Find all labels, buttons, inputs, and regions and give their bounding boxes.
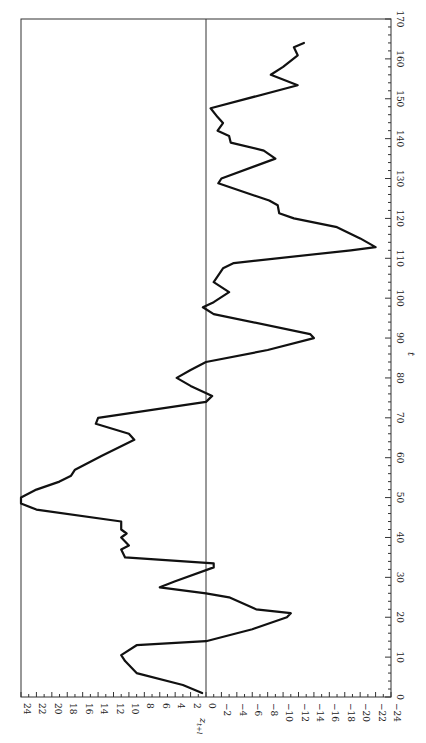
t-tick-label: 80 [395,372,405,384]
t-tick-label: 150 [395,90,405,107]
z-tick-label: −2 [222,703,232,716]
z-tick-label: −16 [330,703,340,722]
z-tick-label: 24 [22,703,32,715]
z-tick-label: 8 [145,703,155,709]
z-tick-label: −10 [284,703,294,722]
t-tick-label: 170 [395,10,405,27]
time-series-chart: 242220181614121086420−2−4−6−8−10−12−14−1… [0,0,426,743]
t-tick-label: 70 [395,412,405,424]
t-tick-label: 20 [395,612,405,624]
z-tick-label: 4 [176,703,186,709]
t-axis-title: t [406,352,417,357]
t-tick-label: 30 [395,572,405,584]
z-tick-label: −8 [269,703,279,717]
t-tick-label: 10 [395,651,405,663]
t-tick-label: 60 [395,452,405,464]
z-tick-label: 10 [130,703,140,715]
t-axis-ticks: 0102030405060708090100110120130140150160… [385,10,405,700]
z-tick-label: −6 [253,703,263,717]
z-tick-label: −24 [392,703,402,722]
t-tick-label: 50 [395,492,405,504]
z-tick-label: −18 [346,703,356,722]
z-tick-label: 16 [84,703,94,715]
z-tick-label: 2 [192,703,202,709]
z-tick-label: 0 [207,703,217,709]
t-tick-label: 120 [395,210,405,227]
z-tick-label: 12 [115,703,125,714]
t-tick-label: 40 [395,532,405,544]
z-axis-label: zt+l [195,717,209,734]
z-tick-label: −14 [315,703,325,722]
z-tick-label: 6 [161,703,171,709]
z-tick-label: −20 [361,703,371,722]
z-tick-label: −12 [300,703,310,722]
z-tick-label: −22 [377,703,387,722]
t-tick-label: 140 [395,130,405,147]
t-tick-label: 110 [395,250,405,267]
z-axis-title: zt+l [195,717,209,734]
t-tick-label: 160 [395,50,405,67]
z-tick-label: 20 [53,703,63,715]
z-tick-label: 18 [68,703,78,715]
z-tick-label: −4 [238,703,248,717]
z-tick-label: 14 [99,703,109,715]
z-tick-label: 22 [37,703,47,714]
t-tick-label: 90 [395,332,405,344]
series-line [21,43,376,693]
t-tick-label: 0 [395,694,405,700]
t-tick-label: 130 [395,170,405,187]
t-tick-label: 100 [395,290,405,307]
